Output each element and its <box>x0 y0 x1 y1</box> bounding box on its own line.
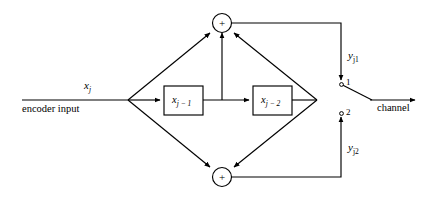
adder-top-plus-symbol: + <box>219 18 225 29</box>
delay-stage-1-subscript: j − 1 <box>177 99 192 108</box>
delay-stage-2-label: xj − 2 <box>261 95 280 106</box>
delay-stage-2-base: x <box>261 94 266 105</box>
delay-stage-1-base: x <box>172 94 177 105</box>
wire-y2-path <box>232 117 342 177</box>
channel-caption: channel <box>377 103 410 114</box>
switch-contact-2-stud[interactable] <box>340 112 344 116</box>
switch-terminal-2-label: 2 <box>346 108 351 117</box>
input-signal-label: xj <box>84 80 91 91</box>
figure-canvas: + + xj encoder input xj − 1 xj − 2 yj1 y… <box>0 0 431 201</box>
wire-y1-path <box>232 23 342 80</box>
encoder-diagram-svg <box>0 0 431 201</box>
wire-input-to-bottom-adder <box>128 100 210 167</box>
wire-stage2-to-top-adder <box>234 33 317 100</box>
output-1-label: yj1 <box>348 50 359 61</box>
adder-bottom-plus-symbol: + <box>219 172 225 183</box>
switch-terminal-1-label: 1 <box>346 78 351 87</box>
output-2-label: yj2 <box>348 142 359 153</box>
delay-stage-2-subscript: j − 2 <box>266 99 281 108</box>
delay-stage-1-label: xj − 1 <box>172 95 191 106</box>
switch-contact-1-stud[interactable] <box>340 83 344 87</box>
input-signal-subscript: j <box>89 85 91 94</box>
output-2-subscript: j2 <box>353 147 359 156</box>
wire-stage2-to-bottom-adder <box>234 100 317 167</box>
encoder-input-caption: encoder input <box>22 104 79 115</box>
wire-input-to-top-adder <box>128 33 210 100</box>
output-1-subscript: j1 <box>353 55 359 64</box>
